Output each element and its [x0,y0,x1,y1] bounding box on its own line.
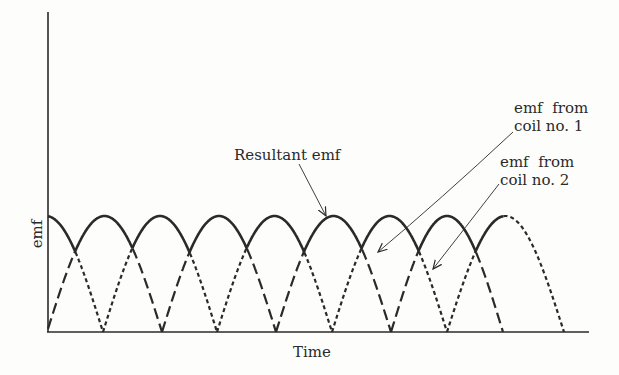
coil-emf-curve [48,251,76,329]
coil-emf-curve [133,248,163,332]
resultant-emf-curve [362,216,420,252]
coil1-label-line1: emf from [514,99,588,117]
resultant-emf-curve [190,216,248,252]
coil-emf-curve [103,248,133,332]
resultant-label: Resultant emf [234,146,342,164]
coil-emf-curve [476,252,503,332]
coil-emf-curve [332,248,362,332]
coil-emf-curve [162,252,190,332]
resultant-arrow [299,164,326,216]
resultant-emf-curve [247,216,305,253]
coil1-label-line2: coil no. 1 [514,117,583,135]
curves [48,216,564,332]
resultant-emf-curve [419,216,476,252]
resultant-emf-curve [133,216,191,253]
coil2-label-line1: emf from [500,153,574,171]
coil-emf-curve [217,247,247,332]
coil-emf-curve [247,249,276,332]
resultant-emf-curve [76,216,133,251]
coil-emf-curve [276,252,304,332]
coil-emf-curve [391,250,419,332]
coil-emf-curve [190,253,217,332]
coil-emf-curve [447,251,476,333]
coil2-label-line2: coil no. 2 [500,171,569,189]
coil-emf-curve [305,253,333,332]
resultant-emf-curve [48,216,76,252]
y-axis-label: emf [28,218,46,248]
resultant-emf-curve [304,216,362,252]
resultant-emf-curve [476,216,504,250]
coil-emf-curve [419,252,447,332]
coil-emf-curve [76,252,104,332]
coil-emf-curve [504,216,565,332]
coil-emf-curve [362,249,391,332]
emf-diagram: Resultant emf emf from coil no. 1 emf fr… [0,0,619,375]
x-axis-label: Time [293,343,331,361]
